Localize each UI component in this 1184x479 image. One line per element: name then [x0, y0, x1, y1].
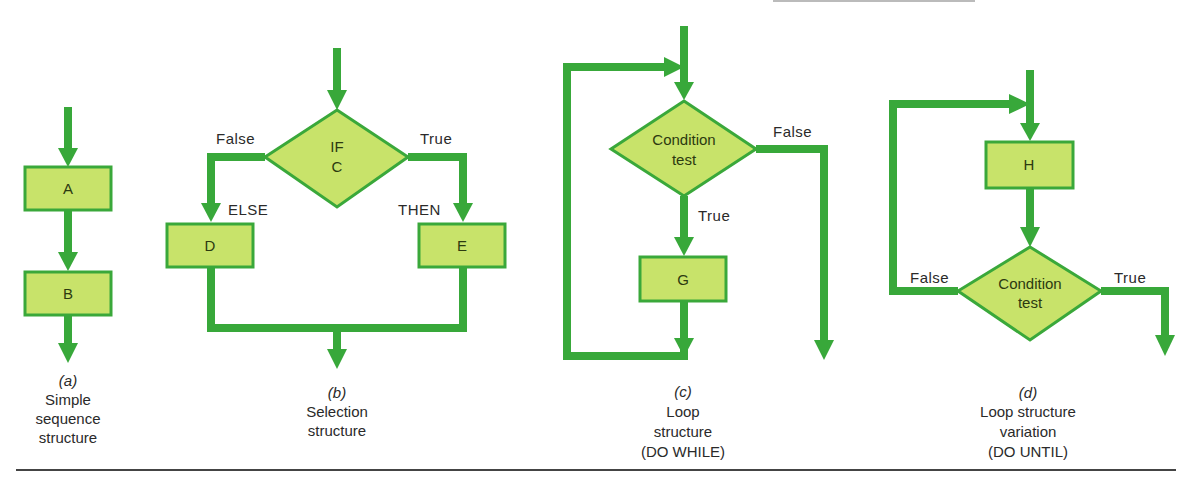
- diagram-d-do-until: H Condition test False True (d) Loop str…: [893, 70, 1175, 460]
- caption-line: structure: [39, 429, 97, 446]
- caption-letter-c: (c): [674, 383, 692, 400]
- false-exit-line: [756, 149, 824, 342]
- arrow-down-icon: [327, 349, 347, 369]
- arrow-down-icon: [201, 203, 221, 222]
- process-label-e: E: [457, 237, 467, 254]
- false-label: False: [910, 269, 949, 286]
- then-label: THEN: [398, 201, 441, 218]
- arrow-down-icon: [58, 148, 78, 167]
- decision-label-line1: Condition: [998, 275, 1061, 292]
- caption-line: variation: [1000, 423, 1057, 440]
- caption-line: sequence: [35, 410, 100, 427]
- loop-back-line: [567, 67, 684, 356]
- arrow-down-icon: [58, 343, 78, 363]
- arrow-down-icon: [1020, 227, 1040, 247]
- caption-line: Selection: [306, 403, 368, 420]
- false-branch-line: [211, 157, 265, 206]
- process-label-g: G: [677, 271, 689, 288]
- arrow-down-icon: [814, 340, 834, 360]
- caption-letter-d: (d): [1019, 384, 1037, 401]
- process-label-d: D: [205, 237, 216, 254]
- caption-line: structure: [308, 422, 366, 439]
- arrow-down-icon: [58, 252, 78, 271]
- arrow-down-icon: [1020, 123, 1040, 141]
- caption-line: Loop: [666, 403, 699, 420]
- diagram-a-sequence: A B (a) Simple sequence structure: [25, 107, 111, 446]
- caption-line: Simple: [45, 391, 91, 408]
- flowchart-figure: A B (a) Simple sequence structure IF C F…: [0, 0, 1184, 479]
- loop-back-line: [893, 104, 1012, 291]
- process-label-a: A: [63, 180, 73, 197]
- caption-line: structure: [654, 423, 712, 440]
- merge-line: [211, 267, 463, 328]
- decision-label-line2: test: [672, 151, 697, 168]
- arrow-down-icon: [674, 82, 694, 100]
- true-label: True: [698, 207, 730, 224]
- caption-line: (DO WHILE): [641, 443, 725, 460]
- else-label: ELSE: [228, 201, 268, 218]
- caption-letter-b: (b): [328, 384, 346, 401]
- decision-label-line2: test: [1018, 294, 1043, 311]
- caption-line: (DO UNTIL): [988, 443, 1068, 460]
- false-label: False: [773, 123, 812, 140]
- true-label: True: [420, 130, 452, 147]
- false-label: False: [216, 130, 255, 147]
- decision-diamond-condition: [611, 101, 756, 196]
- decision-label-line1: IF: [330, 138, 343, 155]
- arrow-down-icon: [327, 90, 347, 110]
- true-branch-line: [408, 157, 463, 206]
- decision-label-line1: Condition: [652, 131, 715, 148]
- true-label: True: [1114, 269, 1146, 286]
- process-label-h: H: [1024, 156, 1035, 173]
- arrow-down-icon: [674, 237, 694, 256]
- diagram-c-do-while: Condition test False True G (c) Loop str…: [567, 26, 834, 460]
- arrow-down-icon: [453, 203, 473, 222]
- diagram-b-selection: IF C False ELSE D True THEN E (b) Select…: [167, 48, 505, 439]
- arrow-down-icon: [1155, 335, 1175, 356]
- true-exit-line: [1101, 291, 1165, 338]
- process-label-b: B: [63, 285, 73, 302]
- caption-letter-a: (a): [59, 372, 77, 389]
- caption-line: Loop structure: [980, 403, 1076, 420]
- decision-label-line2: C: [332, 158, 343, 175]
